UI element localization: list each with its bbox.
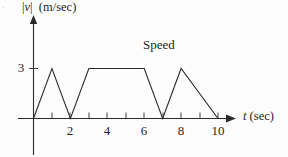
x-axis-title: t (sec) bbox=[243, 110, 274, 123]
y-axis-title: |v| (m/sec) bbox=[22, 1, 76, 14]
y-axis-arrow-icon bbox=[30, 15, 37, 24]
x-tick-label-8: 8 bbox=[174, 124, 188, 137]
x-tick-label-4: 4 bbox=[100, 124, 114, 137]
series-label-speed: Speed bbox=[143, 38, 175, 51]
x-axis-title-unit: (sec) bbox=[246, 109, 273, 123]
speed-graph-figure: · |v| (m/sec) t (sec) Speed 3 2 4 bbox=[0, 0, 288, 157]
y-axis-title-unit: (m/sec) bbox=[33, 0, 77, 14]
x-tick-label-10: 10 bbox=[207, 124, 229, 137]
speed-curve bbox=[34, 69, 219, 119]
x-tick-label-2: 2 bbox=[63, 124, 77, 137]
x-tick-label-6: 6 bbox=[137, 124, 151, 137]
x-axis-arrow-icon bbox=[226, 115, 236, 123]
y-tick-label-3: 3 bbox=[14, 61, 28, 74]
